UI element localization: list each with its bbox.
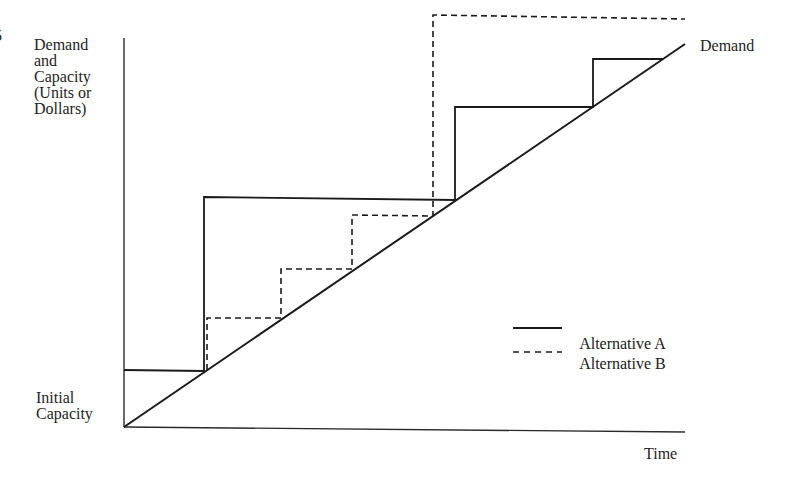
x-axis (124, 427, 685, 432)
legend-item-alternative-b: Alternative B (572, 340, 666, 372)
demand-label: Demand (700, 38, 754, 54)
y-axis-label: Demand and Capacity (Units or Dollars) (34, 37, 91, 117)
alternative-b-line (207, 15, 685, 370)
x-axis-label: Time (644, 446, 677, 462)
chart-canvas (0, 0, 804, 481)
initial-capacity-label: Initial Capacity (36, 390, 93, 422)
legend-label: Alternative B (579, 355, 666, 372)
figure-number-fragment: 5 (0, 28, 2, 44)
